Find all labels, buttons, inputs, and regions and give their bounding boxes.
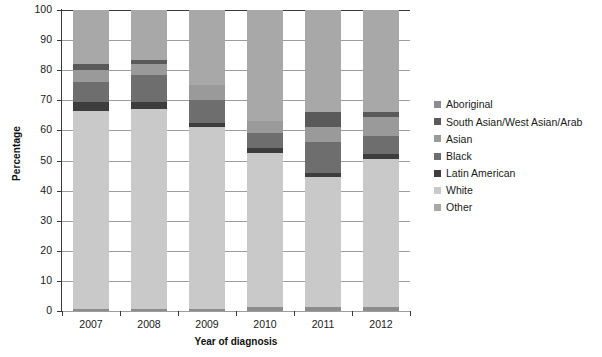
legend-item-asian[interactable]: Asian [434, 130, 600, 147]
y-tick-mark [57, 251, 62, 252]
legend-item-black[interactable]: Black [434, 148, 600, 165]
bar-segment-black [305, 142, 341, 172]
y-tick-label: 60 [24, 124, 52, 135]
page-footer-text [283, 341, 583, 351]
legend-item-aboriginal[interactable]: Aboriginal [434, 96, 600, 113]
bar-segment-asian [131, 64, 167, 75]
bar-2009[interactable] [189, 10, 225, 311]
x-tick-label-2009: 2009 [177, 318, 237, 330]
x-tick-label-2010: 2010 [235, 318, 295, 330]
legend-label: Asian [446, 134, 472, 145]
legend-swatch-icon [434, 170, 441, 177]
legend-swatch-icon [434, 135, 441, 142]
x-tick-mark [410, 311, 411, 316]
legend-swatch-icon [434, 153, 441, 160]
gridline [62, 40, 410, 41]
x-tick-mark [120, 311, 121, 316]
bar-segment-other [73, 10, 109, 64]
bar-segment-asian [363, 117, 399, 137]
bar-segment-latin-american [363, 154, 399, 159]
bar-2010[interactable] [247, 10, 283, 311]
legend-item-south-asian-west-asian-arab[interactable]: South Asian/West Asian/Arab [434, 113, 600, 130]
legend-item-white[interactable]: White [434, 182, 600, 199]
y-tick-label: 20 [24, 245, 52, 256]
bar-segment-black [73, 82, 109, 102]
bar-2007[interactable] [73, 10, 109, 311]
bar-segment-white [131, 109, 167, 308]
x-tick-label-2008: 2008 [119, 318, 179, 330]
legend-label: Other [446, 202, 472, 213]
bar-segment-south-asian-west-asian-arab [73, 64, 109, 70]
x-tick-label-2011: 2011 [293, 318, 353, 330]
bar-segment-aboriginal [363, 307, 399, 311]
bar-2012[interactable] [363, 10, 399, 311]
gridline [62, 251, 410, 252]
chart-container: Percentage 01020304050607080901002007200… [0, 0, 602, 357]
legend-label: White [446, 185, 473, 196]
bar-segment-other [247, 10, 283, 121]
x-tick-mark [294, 311, 295, 316]
bar-segment-aboriginal [189, 309, 225, 311]
bar-segment-white [73, 111, 109, 309]
gridline [62, 191, 410, 192]
y-tick-mark [57, 10, 62, 11]
x-tick-mark [62, 311, 63, 316]
gridline [62, 70, 410, 71]
y-tick-label: 70 [24, 94, 52, 105]
y-tick-label: 100 [24, 4, 52, 15]
bar-segment-aboriginal [131, 309, 167, 311]
chart-legend: AboriginalSouth Asian/West Asian/ArabAsi… [434, 96, 600, 216]
legend-item-other[interactable]: Other [434, 199, 600, 216]
bar-segment-south-asian-west-asian-arab [131, 60, 167, 65]
bar-segment-white [247, 153, 283, 307]
y-tick-label: 10 [24, 275, 52, 286]
bar-segment-black [247, 133, 283, 148]
legend-label: South Asian/West Asian/Arab [446, 117, 582, 128]
y-tick-mark [57, 191, 62, 192]
gridline [62, 161, 410, 162]
legend-label: Black [446, 151, 472, 162]
legend-swatch-icon [434, 187, 441, 194]
y-tick-mark [57, 40, 62, 41]
bar-segment-other [363, 10, 399, 112]
legend-swatch-icon [434, 204, 441, 211]
bar-segment-aboriginal [247, 307, 283, 311]
bar-segment-south-asian-west-asian-arab [363, 112, 399, 117]
legend-swatch-icon [434, 118, 441, 125]
y-tick-mark [57, 70, 62, 71]
bar-segment-white [189, 127, 225, 308]
gridline [62, 221, 410, 222]
bar-2008[interactable] [131, 10, 167, 311]
bar-segment-other [131, 10, 167, 60]
y-tick-mark [57, 100, 62, 101]
bar-segment-aboriginal [305, 307, 341, 311]
gridline [62, 10, 410, 11]
y-tick-label: 80 [24, 64, 52, 75]
bar-segment-latin-american [131, 102, 167, 110]
bar-segment-black [363, 136, 399, 154]
y-tick-mark [57, 281, 62, 282]
bar-segment-asian [73, 70, 109, 82]
bar-segment-latin-american [247, 148, 283, 153]
legend-swatch-icon [434, 101, 441, 108]
bar-segment-black [189, 100, 225, 123]
y-tick-label: 30 [24, 215, 52, 226]
bar-segment-asian [247, 121, 283, 133]
y-tick-mark [57, 221, 62, 222]
bar-segment-asian [189, 85, 225, 100]
bar-segment-latin-american [73, 102, 109, 111]
y-tick-label: 0 [24, 305, 52, 316]
bar-segment-other [189, 10, 225, 85]
gridline [62, 130, 410, 131]
legend-item-latin-american[interactable]: Latin American [434, 165, 600, 182]
bar-segment-black [131, 75, 167, 102]
bar-segment-south-asian-west-asian-arab [305, 112, 341, 127]
bar-2011[interactable] [305, 10, 341, 311]
x-tick-mark [178, 311, 179, 316]
y-axis-title: Percentage [11, 104, 22, 204]
bar-segment-other [305, 10, 341, 112]
gridline [62, 281, 410, 282]
bar-segment-white [305, 177, 341, 307]
bar-segment-white [363, 159, 399, 307]
legend-label: Latin American [446, 168, 515, 179]
